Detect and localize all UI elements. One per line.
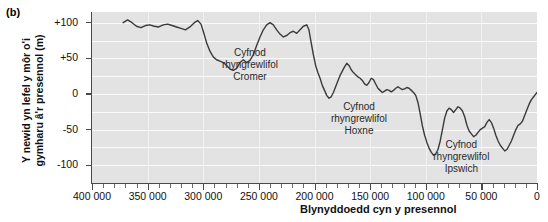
- x-tick-minor: [448, 184, 449, 188]
- x-tick-minor: [125, 184, 126, 188]
- x-axis-label: Blynyddoedd cyn y presennol: [300, 203, 456, 215]
- x-tick-minor: [337, 184, 338, 188]
- x-tick-minor: [137, 184, 138, 188]
- x-tick-label: 50 000: [465, 190, 497, 202]
- x-tick-minor: [493, 184, 494, 188]
- y-tick: [86, 129, 91, 130]
- y-tick-label: -100: [18, 158, 78, 170]
- x-tick-minor: [170, 184, 171, 188]
- x-tick-label: 0: [534, 190, 540, 202]
- x-tick-minor: [504, 184, 505, 188]
- x-tick-label: 350 000: [129, 190, 167, 202]
- x-tick-minor: [303, 184, 304, 188]
- x-tick-minor: [181, 184, 182, 188]
- x-tick-minor: [114, 184, 115, 188]
- x-tick-minor: [292, 184, 293, 188]
- x-tick-minor: [470, 184, 471, 188]
- annotation-line: Cyfnod: [331, 101, 387, 113]
- y-tick-label: +100: [18, 16, 78, 28]
- x-tick-label: 150 000: [351, 190, 389, 202]
- y-tick-label: -50: [18, 123, 78, 135]
- y-tick: [86, 165, 91, 166]
- x-tick-minor: [348, 184, 349, 188]
- annotation-line: rhyngrewlifol: [331, 113, 387, 125]
- x-tick-minor: [237, 184, 238, 188]
- x-tick-minor: [226, 184, 227, 188]
- x-tick-minor: [192, 184, 193, 188]
- x-tick-minor: [359, 184, 360, 188]
- x-tick-minor: [326, 184, 327, 188]
- y-axis-label: Y newid yn lefel y môr o'i gymharu â'r p…: [20, 21, 45, 181]
- x-tick-minor: [159, 184, 160, 188]
- annotation-line: Cyfnod: [433, 139, 489, 151]
- x-tick-minor: [437, 184, 438, 188]
- y-tick: [86, 22, 91, 23]
- x-tick-label: 400 000: [73, 190, 111, 202]
- x-tick-minor: [381, 184, 382, 188]
- chart-annotation: CyfnodrhyngrewlifolIpswich: [433, 139, 489, 175]
- annotation-line: Ipswich: [433, 163, 489, 175]
- x-tick-minor: [459, 184, 460, 188]
- chart-annotation: CyfnodrhyngrewlifolHoxne: [331, 101, 387, 137]
- annotation-line: Cyfnod: [222, 47, 278, 59]
- x-tick-minor: [103, 184, 104, 188]
- x-tick-minor: [392, 184, 393, 188]
- annotation-line: Cromer: [222, 71, 278, 83]
- annotation-line: rhyngrewlifol: [222, 59, 278, 71]
- x-tick-label: 200 000: [296, 190, 334, 202]
- x-tick-minor: [214, 184, 215, 188]
- x-tick-minor: [270, 184, 271, 188]
- y-tick-label: 0: [18, 87, 78, 99]
- x-tick-minor: [248, 184, 249, 188]
- x-tick-minor: [415, 184, 416, 188]
- y-tick-label: +50: [18, 51, 78, 63]
- y-tick: [86, 93, 91, 94]
- x-tick-label: 250 000: [240, 190, 278, 202]
- x-tick-minor: [281, 184, 282, 188]
- chart-annotation: CyfnodrhyngrewlifolCromer: [222, 47, 278, 83]
- annotation-line: rhyngrewlifol: [433, 151, 489, 163]
- x-tick-minor: [404, 184, 405, 188]
- x-tick-label: 100 000: [407, 190, 445, 202]
- annotation-line: Hoxne: [331, 125, 387, 137]
- x-tick-minor: [526, 184, 527, 188]
- x-tick-label: 300 000: [184, 190, 222, 202]
- y-tick: [86, 58, 91, 59]
- figure-panel-b: (b) Y newid yn lefel y môr o'i gymharu â…: [0, 0, 548, 222]
- x-tick-minor: [515, 184, 516, 188]
